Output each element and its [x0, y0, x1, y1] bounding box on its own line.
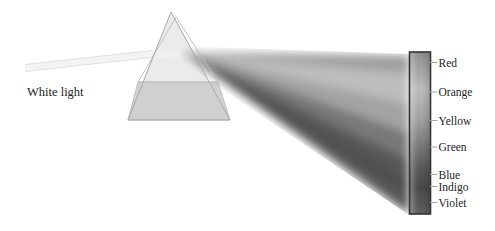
spectrum-label-blue: Blue — [439, 169, 461, 181]
spectrum-label-indigo: Indigo — [439, 181, 469, 194]
spectrum-label-orange: Orange — [439, 86, 473, 99]
white-light-label: White light — [27, 85, 84, 99]
bar-shading — [411, 53, 430, 213]
spectrum-label-red: Red — [439, 57, 458, 69]
dispersion-diagram: RedOrangeYellowGreenBlueIndigoViolet Whi… — [0, 0, 495, 231]
screen-bar — [410, 52, 431, 214]
diagram-canvas: RedOrangeYellowGreenBlueIndigoViolet Whi… — [0, 0, 495, 231]
spectrum-label-green: Green — [439, 141, 467, 153]
spectrum-label-yellow: Yellow — [439, 115, 472, 127]
prism-base-face — [128, 82, 230, 120]
spectrum-label-violet: Violet — [439, 197, 468, 209]
